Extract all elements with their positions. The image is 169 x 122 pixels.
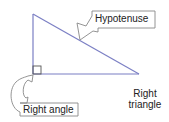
right-angle-label: Right angle [23, 104, 74, 115]
right-triangle-label: Right triangle [127, 88, 163, 110]
hypotenuse-label: Hypotenuse [95, 13, 148, 24]
right-angle-marker [33, 66, 41, 74]
